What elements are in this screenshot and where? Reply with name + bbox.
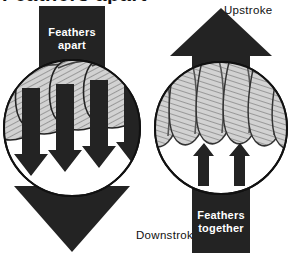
downstroke-arrow-label-line1: Feathers [48,26,95,38]
downstroke-label: Downstroke [136,229,200,241]
upstroke-label: Upstroke [224,4,272,16]
upstroke-arrow-label-line1: Feathers [197,209,244,221]
diagram-canvas: Feathers apart [0,0,290,257]
figure-title-cropped: Feathers apart [0,0,290,4]
downstroke-arrow-label-line2: apart [58,39,86,51]
upstroke-arrow-label-line2: together [198,222,244,234]
wing-feather-diagram: Feathers apart [0,0,290,257]
